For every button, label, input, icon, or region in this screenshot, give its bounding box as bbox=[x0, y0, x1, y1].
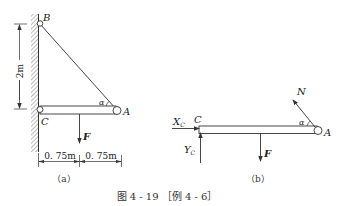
angle-arc-b bbox=[307, 121, 310, 126]
force-yc-label: YC bbox=[184, 144, 196, 156]
angle-label: α bbox=[99, 98, 105, 107]
span-dim-label-1: 0. 75m bbox=[44, 151, 76, 161]
force-n-label: N bbox=[296, 86, 307, 97]
beam-ca bbox=[40, 106, 116, 114]
angle-arc bbox=[106, 101, 110, 106]
force-f-label-b: F bbox=[263, 148, 272, 159]
force-f-label: F bbox=[82, 131, 91, 142]
pin-b bbox=[37, 21, 43, 27]
pin-a-b bbox=[314, 127, 322, 135]
force-xc-label: XC bbox=[172, 116, 185, 128]
cable-ba bbox=[40, 24, 116, 109]
panel-b-label: （b） bbox=[246, 174, 270, 184]
point-c-label: C bbox=[41, 116, 49, 127]
angle-label-b: α bbox=[299, 118, 305, 127]
point-b-label: B bbox=[42, 12, 50, 23]
wall bbox=[31, 14, 39, 152]
panel-a-label: （a） bbox=[52, 174, 75, 184]
pin-a bbox=[113, 107, 121, 115]
point-c-label-b: C bbox=[194, 114, 202, 125]
point-a-label-b: A bbox=[323, 127, 331, 138]
beam-free-body bbox=[199, 126, 317, 134]
figure-caption: 图 4 - 19 ［例 4 - 6］ bbox=[117, 190, 218, 202]
span-dim-label-2: 0. 75m bbox=[85, 151, 117, 161]
figure-canvas: 2m α B C A F 0. 75m bbox=[0, 0, 339, 206]
height-dimension: 2m bbox=[13, 24, 27, 109]
panel-b: A C XC YC N α F （b） bbox=[172, 86, 331, 184]
panel-a: 2m α B C A F 0. 75m bbox=[13, 12, 130, 184]
pin-c bbox=[37, 107, 43, 113]
span-dimension: 0. 75m 0. 75m bbox=[39, 151, 122, 167]
point-a-label: A bbox=[122, 106, 130, 117]
height-dim-label: 2m bbox=[15, 63, 25, 78]
